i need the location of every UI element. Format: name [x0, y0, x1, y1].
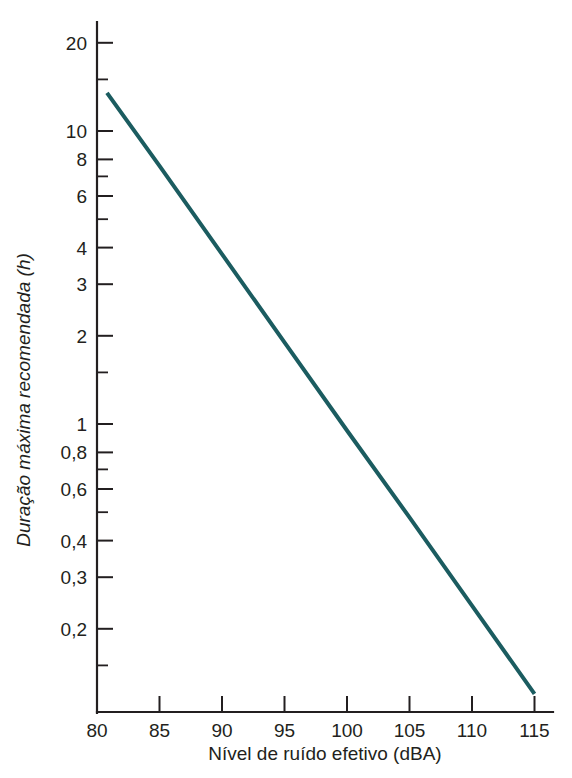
y-tick-label: 10: [66, 121, 87, 142]
y-tick-label: 20: [66, 33, 87, 54]
noise-exposure-line-chart: 20108643210,80,60,40,30,2 80859095100105…: [0, 0, 572, 778]
x-tick-label: 110: [457, 720, 487, 741]
x-tick-label: 100: [331, 720, 363, 741]
x-tick-label: 95: [274, 720, 295, 741]
y-axis-title: Duração máxima recomendada (h): [13, 253, 34, 547]
x-tick-label: 115: [519, 720, 549, 741]
y-tick-label: 0,8: [61, 442, 87, 463]
y-tick-label: 0,6: [61, 479, 87, 500]
x-tick-label: 80: [86, 720, 107, 741]
y-tick-label: 0,3: [61, 567, 87, 588]
chart-figure: 20108643210,80,60,40,30,2 80859095100105…: [0, 0, 572, 778]
y-tick-label: 0,4: [61, 531, 88, 552]
y-tick-label: 2: [76, 326, 87, 347]
x-tick-label: 90: [211, 720, 232, 741]
y-tick-label: 8: [76, 149, 87, 170]
y-tick-label: 6: [76, 186, 87, 207]
y-axis-major-ticks: [97, 43, 113, 629]
x-axis-title: Nível de ruído efetivo (dBA): [208, 743, 441, 764]
x-tick-label: 85: [149, 720, 170, 741]
y-tick-label: 4: [76, 238, 87, 259]
chart-background: [0, 0, 572, 778]
x-tick-label: 105: [394, 720, 426, 741]
y-tick-label: 0,2: [61, 619, 87, 640]
y-tick-label: 3: [76, 274, 87, 295]
y-tick-label: 1: [76, 414, 87, 435]
